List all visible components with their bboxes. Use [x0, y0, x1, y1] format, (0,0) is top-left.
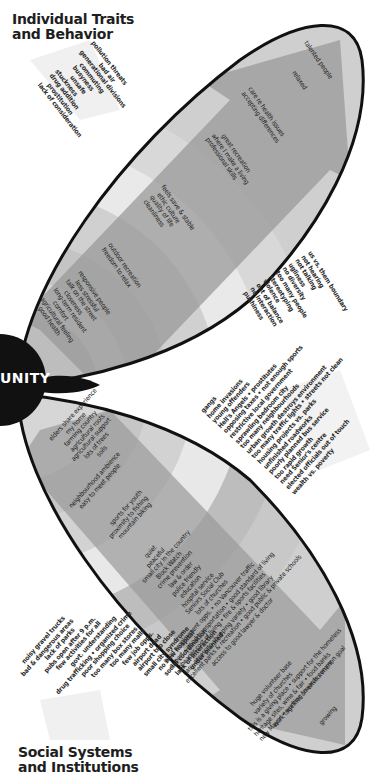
unity-label: UNITY [0, 370, 50, 386]
